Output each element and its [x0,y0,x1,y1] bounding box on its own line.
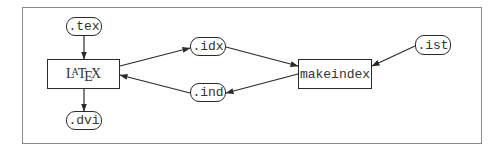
edge-latex-idx [120,48,190,66]
node-ist: .ist [415,35,451,55]
edge-ist-makeindex [372,46,415,66]
node-ind: .ind [190,83,226,102]
edge-idx-makeindex [226,47,298,66]
node-makeindex-label: makeindex [300,67,370,82]
edge-ind-latex [120,75,190,93]
node-idx-label: .idx [192,39,223,54]
node-tex: .tex [66,17,102,36]
node-idx: .idx [190,37,226,56]
node-dvi: .dvi [66,111,102,130]
latex-logo: LATEX [66,66,101,82]
node-ist-label: .ist [417,38,448,53]
node-latex: LATEX [47,59,120,89]
node-makeindex: makeindex [298,59,372,89]
node-ind-label: .ind [192,85,223,100]
edge-makeindex-ind [226,74,298,93]
node-dvi-label: .dvi [68,113,99,128]
node-tex-label: .tex [68,19,99,34]
